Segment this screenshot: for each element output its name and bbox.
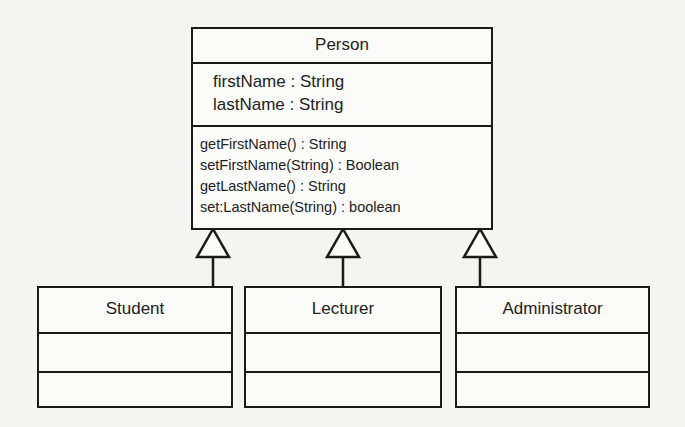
class-person-methods: getFirstName() : String setFirstName(Str…: [193, 125, 491, 228]
class-administrator-methods: [457, 371, 648, 406]
class-student-methods: [39, 371, 231, 406]
generalization-arrow-lecturer: [327, 229, 359, 257]
class-lecturer[interactable]: Lecturer: [244, 286, 442, 408]
method-getfirstname: getFirstName() : String: [193, 134, 491, 155]
class-student-attributes: [39, 332, 231, 371]
class-person[interactable]: Person firstName : String lastName : Str…: [191, 27, 493, 230]
class-lecturer-name: Lecturer: [246, 288, 440, 332]
class-person-name: Person: [193, 29, 491, 62]
class-person-attributes: firstName : String lastName : String: [193, 62, 491, 125]
class-lecturer-attributes: [246, 332, 440, 371]
generalization-arrow-student: [197, 229, 229, 257]
attribute-lastname: lastName : String: [193, 93, 491, 116]
class-administrator-name: Administrator: [457, 288, 648, 332]
class-student-name: Student: [39, 288, 231, 332]
method-setlastname: set:LastName(String) : boolean: [193, 197, 491, 218]
method-getlastname: getLastName() : String: [193, 176, 491, 197]
class-administrator[interactable]: Administrator: [455, 286, 650, 408]
generalization-arrow-administrator: [464, 229, 496, 257]
method-setfirstname: setFirstName(String) : Boolean: [193, 155, 491, 176]
class-administrator-attributes: [457, 332, 648, 371]
attribute-firstname: firstName : String: [193, 70, 491, 93]
class-lecturer-methods: [246, 371, 440, 406]
class-student[interactable]: Student: [37, 286, 233, 408]
